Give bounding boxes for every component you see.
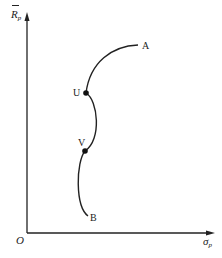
y-axis-label-text: R — [11, 8, 18, 20]
point-a-label: A — [142, 41, 149, 51]
efficient-frontier-diagram: R p σp O A U V B — [0, 0, 222, 258]
y-axis-arrow-icon — [25, 12, 30, 21]
x-axis-label-subscript: p — [208, 241, 212, 249]
curve-segment-u-v — [85, 93, 96, 151]
point-u-marker — [83, 90, 89, 96]
y-axis-label-subscript: p — [18, 14, 22, 22]
y-axis-label: R p — [11, 9, 21, 22]
curve-segment-a-u — [86, 45, 138, 93]
diagram-canvas — [0, 0, 222, 258]
point-u-label: U — [73, 88, 80, 98]
x-axis-label: σp — [203, 236, 212, 249]
point-v-marker — [82, 148, 88, 154]
curve-segment-v-b — [78, 151, 88, 216]
y-axis-label-bar — [12, 5, 19, 6]
point-v-label: V — [78, 138, 85, 148]
point-b-label: B — [90, 213, 97, 223]
origin-label: O — [16, 235, 24, 246]
